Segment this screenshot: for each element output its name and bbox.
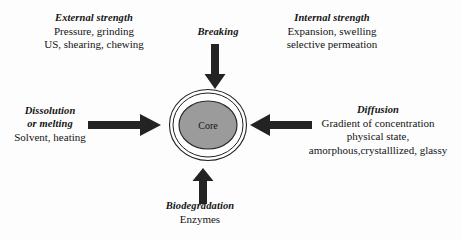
biodegradation-line-1: Enzymes [140,213,260,226]
breaking-heading: Breaking [178,26,258,39]
dissolution-heading-line-1: Dissolution [4,105,96,118]
external-strength-line-1: Pressure, grinding [14,25,174,38]
internal-strength-line-2: selective permeation [252,38,412,51]
diffusion-line-3: amorphous,crystalllized, glassy [295,144,461,157]
arrow-breaking-down-icon [198,44,232,90]
arrow-biodegradation-up-icon [186,168,220,204]
label-external-strength: External strength Pressure, grinding US,… [14,12,174,52]
arrow-dissolution-right-icon [88,112,162,138]
internal-strength-heading: Internal strength [252,12,412,25]
label-diffusion: Diffusion Gradient of concentration phys… [295,104,461,157]
diffusion-line-1: Gradient of concentration [295,117,461,130]
diagram-canvas: External strength Pressure, grinding US,… [0,0,461,241]
dissolution-heading-line-2: or melting [4,118,96,131]
diffusion-heading: Diffusion [295,104,461,117]
label-dissolution-or-melting: Dissolution or melting Solvent, heating [4,105,96,144]
internal-strength-line-1: Expansion, swelling [252,25,412,38]
arrow-diffusion-left-icon [250,112,312,138]
diffusion-line-2: physical state, [295,130,461,143]
dissolution-line-1: Solvent, heating [4,131,96,144]
external-strength-line-2: US, shearing, chewing [14,38,174,51]
external-strength-heading: External strength [14,12,174,25]
core-graphic [168,88,248,162]
label-breaking: Breaking [178,26,258,39]
label-internal-strength: Internal strength Expansion, swelling se… [252,12,412,52]
